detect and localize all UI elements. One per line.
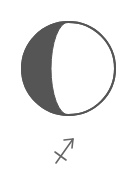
moon-phase-icon	[22, 22, 115, 115]
moon-illustration	[0, 0, 129, 177]
sagittarius-icon	[55, 139, 73, 163]
moon-phase-card: waxing gibbous Sagittarius	[0, 0, 129, 177]
